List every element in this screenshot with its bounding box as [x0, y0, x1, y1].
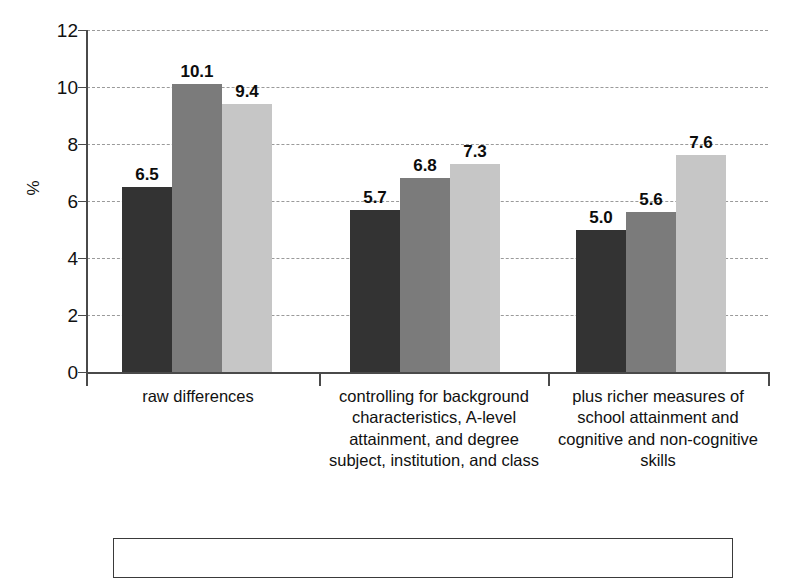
gridline-12 [87, 30, 768, 31]
bar-value-label-g2-s2: 6.8 [400, 157, 450, 174]
bar-value-label-g1-s2: 10.1 [172, 63, 222, 80]
bar-value-label-g3-s1: 5.0 [576, 209, 626, 226]
y-tick-label-10: 10 [38, 78, 78, 97]
bar-group1-series2 [172, 84, 222, 372]
y-tick-mark-12 [78, 30, 87, 31]
x-axis-cat-tick-2 [548, 373, 550, 386]
bar-group3-series3 [676, 155, 726, 372]
x-axis-line [86, 372, 770, 374]
x-axis-cat-tick-end [768, 373, 770, 386]
x-axis-cat-tick-start [86, 373, 88, 386]
bar-group3-series2 [626, 212, 676, 372]
bar-group2-series3 [450, 164, 500, 372]
x-axis-cat-tick-1 [319, 373, 321, 386]
y-tick-mark-8 [78, 144, 87, 145]
bar-value-label-g2-s3: 7.3 [450, 143, 500, 160]
y-tick-mark-10 [78, 87, 87, 88]
bar-value-label-g1-s1: 6.5 [122, 166, 172, 183]
bar-group2-series2 [400, 178, 450, 372]
bar-value-label-g3-s2: 5.6 [626, 191, 676, 208]
bar-value-label-g3-s3: 7.6 [676, 134, 726, 151]
legend-box [113, 538, 733, 578]
x-category-label-2: controlling for background characteristi… [322, 386, 546, 472]
y-tick-label-6: 6 [38, 192, 78, 211]
y-tick-label-4: 4 [38, 249, 78, 268]
bar-group2-series1 [350, 210, 400, 372]
y-tick-label-0: 0 [38, 363, 78, 382]
y-tick-mark-2 [78, 315, 87, 316]
y-tick-label-12: 12 [38, 21, 78, 40]
y-tick-label-2: 2 [38, 306, 78, 325]
x-category-label-1: raw differences [118, 386, 278, 407]
bar-group1-series1 [122, 187, 172, 372]
bar-value-label-g2-s1: 5.7 [350, 189, 400, 206]
bar-group3-series1 [576, 230, 626, 373]
y-tick-mark-4 [78, 258, 87, 259]
y-tick-label-8: 8 [38, 135, 78, 154]
bar-group1-series3 [222, 104, 272, 372]
x-category-label-3: plus richer measures of school attainmen… [550, 386, 766, 472]
bar-value-label-g1-s3: 9.4 [222, 83, 272, 100]
y-tick-mark-6 [78, 201, 87, 202]
